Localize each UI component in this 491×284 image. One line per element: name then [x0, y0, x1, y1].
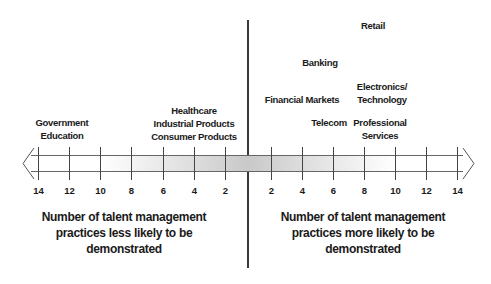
axis-tick	[131, 147, 132, 180]
axis-tick-label: 14	[33, 185, 44, 196]
industry-label: ProfessionalServices	[353, 116, 406, 142]
industry-label-line: Consumer Products	[151, 130, 237, 143]
right-caption: Number of talent management practices mo…	[253, 209, 473, 257]
axis-tick	[100, 147, 101, 180]
axis-tick-label: 6	[161, 185, 166, 196]
industry-label-line: Telecom	[311, 116, 347, 129]
axis-tick	[69, 147, 70, 180]
axis-tick-label: 4	[300, 185, 305, 196]
industry-label-line: Healthcare	[151, 104, 237, 117]
industry-label-line: Industrial Products	[151, 117, 237, 130]
axis-tick	[395, 147, 396, 180]
industry-label: Telecom	[311, 116, 347, 129]
axis-tick-label: 4	[192, 185, 197, 196]
axis-tick	[194, 147, 195, 180]
axis-tick-label: 8	[129, 185, 134, 196]
industry-label: HealthcareIndustrial ProductsConsumer Pr…	[151, 104, 237, 143]
industry-label: Electronics/Technology	[357, 80, 407, 106]
left-caption-line: practices less likely to be	[14, 225, 234, 241]
axis-tick	[302, 147, 303, 180]
industry-label: Banking	[302, 56, 337, 69]
axis-tick	[225, 147, 226, 180]
industry-label-line: Retail	[361, 19, 385, 32]
right-caption-line: Number of talent management	[253, 209, 473, 225]
axis-gradient-band	[31, 155, 465, 172]
industry-label-line: Financial Markets	[265, 93, 340, 106]
industry-label-line: Technology	[357, 93, 407, 106]
industry-label: GovernmentEducation	[36, 116, 89, 142]
axis-tick	[271, 147, 272, 180]
axis-tick-label: 2	[223, 185, 228, 196]
industry-label-line: Education	[36, 129, 89, 142]
axis-tick-label: 8	[362, 185, 367, 196]
industry-label: Financial Markets	[265, 93, 340, 106]
industry-label-line: Professional	[353, 116, 406, 129]
axis-tick	[333, 147, 334, 180]
industry-label-line: Services	[353, 129, 406, 142]
axis-tick-label: 12	[64, 185, 75, 196]
axis-tick-label: 2	[269, 185, 274, 196]
axis-tick-label: 14	[452, 185, 463, 196]
industry-label-line: Electronics/	[357, 80, 407, 93]
axis-tick-label: 12	[421, 185, 432, 196]
right-caption-line: demonstrated	[253, 241, 473, 257]
axis-tick-label: 10	[95, 185, 106, 196]
axis-tick-label: 10	[390, 185, 401, 196]
left-arrowhead-icon	[21, 147, 35, 180]
axis-tick	[38, 147, 39, 180]
industry-label: Retail	[361, 19, 385, 32]
left-caption-line: Number of talent management	[14, 209, 234, 225]
center-divider-line	[247, 20, 249, 268]
industry-label-line: Government	[36, 116, 89, 129]
left-caption-line: demonstrated	[14, 241, 234, 257]
industry-label-line: Banking	[302, 56, 337, 69]
axis-tick-label: 6	[331, 185, 336, 196]
axis-tick	[364, 147, 365, 180]
axis-tick	[457, 147, 458, 180]
axis-tick	[426, 147, 427, 180]
axis-tick	[163, 147, 164, 180]
right-caption-line: practices more likely to be	[253, 225, 473, 241]
left-caption: Number of talent management practices le…	[14, 209, 234, 257]
right-arrowhead-icon	[462, 147, 476, 180]
